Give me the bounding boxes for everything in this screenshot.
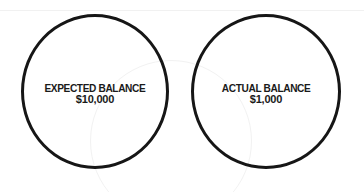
expected-balance-text: EXPECTED BALANCE $10,000 [40, 83, 150, 105]
actual-balance-label: ACTUAL BALANCE [222, 83, 311, 94]
background-show-through-line [0, 10, 364, 11]
actual-balance-text: ACTUAL BALANCE $1,000 [218, 83, 314, 105]
expected-balance-label: EXPECTED BALANCE [45, 83, 146, 94]
expected-balance-circle: EXPECTED BALANCE $10,000 [21, 14, 169, 169]
actual-balance-circle: ACTUAL BALANCE $1,000 [191, 14, 341, 169]
actual-balance-value: $1,000 [218, 94, 314, 105]
expected-balance-value: $10,000 [40, 94, 150, 105]
